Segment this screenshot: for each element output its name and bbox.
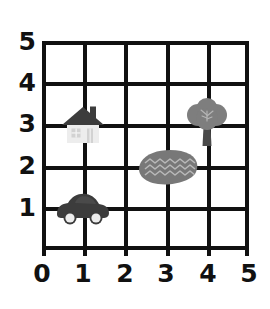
y-axis-label-4: 4: [10, 70, 36, 95]
x-tick-2: [124, 250, 128, 256]
x-tick-0: [42, 250, 46, 256]
y-axis-label-5: 5: [10, 29, 36, 54]
house-icon: [60, 103, 106, 149]
x-axis-label-4: 4: [193, 261, 223, 286]
coordinate-grid-page: 5 4 3 2 1 0 1 2 3 4 5: [0, 0, 270, 309]
plot-area: [42, 41, 249, 250]
car-icon: [53, 188, 113, 226]
tree-icon: [183, 98, 231, 154]
x-tick-1: [83, 250, 87, 256]
grid-vline-3: [166, 41, 170, 250]
leaf-icon: [131, 148, 201, 186]
x-tick-3: [166, 250, 170, 256]
grid-vline-2: [124, 41, 128, 250]
x-axis-label-0: 0: [27, 261, 57, 286]
x-tick-4: [207, 250, 211, 256]
grid-hline-4: [42, 82, 249, 86]
x-tick-5: [245, 250, 249, 256]
y-axis-label-2: 2: [10, 153, 36, 178]
x-axis-label-3: 3: [151, 261, 181, 286]
y-axis-label-3: 3: [10, 111, 36, 136]
x-axis-label-5: 5: [234, 261, 264, 286]
y-axis-label-1: 1: [10, 195, 36, 220]
x-axis-label-2: 2: [110, 261, 140, 286]
x-axis-label-1: 1: [68, 261, 98, 286]
